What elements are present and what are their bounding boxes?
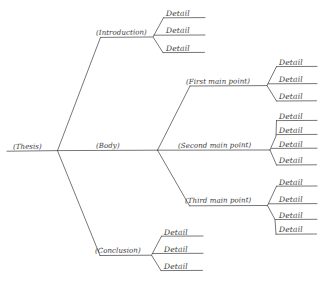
fmp-detail-fork-up	[267, 67, 277, 86]
intro-detail-fork-up	[153, 18, 164, 37]
detail-third-main-point-1[interactable]: Detail	[279, 178, 303, 186]
node-thesis[interactable]: (Thesis)	[13, 143, 42, 150]
node-body[interactable]: (Body)	[96, 143, 120, 150]
detail-second-main-point-1[interactable]: Detail	[279, 113, 303, 121]
node-second-main-point[interactable]: (Second main point)	[178, 142, 251, 150]
smp-detail-fork-up	[270, 121, 277, 150]
smp-detail-fork-down	[270, 150, 277, 165]
tmp-detail-fork-down	[268, 206, 277, 235]
node-conclusion[interactable]: (Conclusion)	[95, 247, 141, 254]
detail-conclusion-2[interactable]: Detail	[164, 245, 188, 253]
node-third-main-point[interactable]: (Third main point)	[185, 197, 251, 205]
detail-conclusion-1[interactable]: Detail	[164, 228, 188, 236]
detail-first-main-point-2[interactable]: Detail	[279, 76, 303, 84]
detail-first-main-point-1[interactable]: Detail	[279, 59, 303, 67]
fmp-detail-fork-down	[267, 86, 277, 101]
branch-thesis-introduction	[58, 37, 101, 150]
diagram-canvas: (Thesis) (Introduction) (Body) (Conclusi…	[0, 0, 321, 284]
detail-introduction-3[interactable]: Detail	[166, 45, 190, 53]
detail-third-main-point-3[interactable]: Detail	[279, 212, 303, 220]
concl-detail-fork-up	[152, 236, 162, 255]
node-introduction[interactable]: (Introduction)	[96, 29, 147, 37]
detail-third-main-point-4[interactable]: Detail	[279, 226, 303, 234]
detail-first-main-point-3[interactable]: Detail	[279, 93, 303, 101]
detail-introduction-1[interactable]: Detail	[166, 10, 190, 18]
branch-thesis-conclusion	[58, 151, 101, 256]
node-first-main-point[interactable]: (First main point)	[186, 78, 250, 86]
detail-introduction-2[interactable]: Detail	[166, 27, 190, 35]
branch-body-first	[158, 86, 191, 150]
intro-detail-fork-down	[153, 37, 163, 53]
detail-third-main-point-2[interactable]: Detail	[279, 196, 303, 204]
diagram-lines	[0, 0, 321, 284]
detail-second-main-point-4[interactable]: Detail	[279, 157, 303, 165]
detail-second-main-point-2[interactable]: Detail	[279, 127, 303, 135]
detail-conclusion-3[interactable]: Detail	[164, 263, 188, 271]
tmp-detail-fork-up	[268, 186, 277, 205]
detail-second-main-point-3[interactable]: Detail	[279, 141, 303, 149]
concl-detail-fork-down	[152, 255, 162, 270]
